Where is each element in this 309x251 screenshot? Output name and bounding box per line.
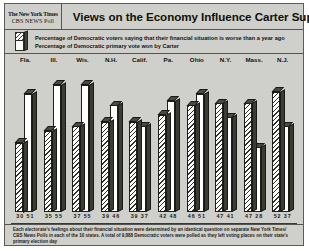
- bar-financial-worse-ny: [215, 103, 223, 212]
- bar-side-face: [52, 129, 57, 212]
- bar-side-face: [61, 82, 66, 212]
- value-label-nj: 52 37: [268, 213, 297, 223]
- bar-financial-worse-mass: [244, 103, 252, 212]
- bar-side-face: [32, 91, 37, 212]
- bar-side-face: [109, 119, 114, 212]
- chart-legend: Percentage of Democratic voters saying t…: [5, 30, 303, 54]
- bar-side-face: [223, 101, 228, 212]
- bar-side-face: [89, 82, 94, 212]
- x-axis-label-ohio: Ohio: [183, 56, 212, 67]
- legend-labels: Percentage of Democratic voters saying t…: [35, 35, 285, 49]
- bar-side-face: [118, 103, 123, 212]
- bar-front-face: [244, 103, 252, 212]
- chart-plot-area: Fla.Ill.Wis.N.H.Calif.Pa.OhioN.Y.Mass.N.…: [5, 54, 303, 224]
- bar-group-ny: [211, 67, 240, 212]
- bar-side-face: [175, 98, 180, 212]
- logo-nyt-text: The New York Times: [8, 10, 58, 17]
- screenshot-root: The New York Times CBS NEWS Poll Views o…: [0, 0, 309, 251]
- x-axis-label-fla: Fla.: [11, 56, 40, 67]
- bar-side-face: [232, 115, 237, 212]
- x-axis-label-pa: Pa.: [154, 56, 183, 67]
- x-axis-label-mass: Mass.: [240, 56, 269, 67]
- x-axis-label-ill: Ill.: [40, 56, 69, 67]
- bar-side-face: [289, 124, 294, 212]
- logo-cbs-text: CBS NEWS Poll: [12, 18, 54, 24]
- value-label-fla: 30 51: [11, 213, 40, 223]
- bar-financial-worse-fla: [15, 143, 23, 213]
- bar-side-face: [261, 145, 266, 212]
- bar-front-face: [129, 122, 137, 212]
- bar-group-ohio: [183, 67, 212, 212]
- legend-swatch-side: [24, 31, 28, 51]
- x-axis-label-ny: N.Y.: [211, 56, 240, 67]
- footnote-text: Each electorate's feelings about their f…: [13, 227, 295, 245]
- value-label-nh: 39 46: [97, 213, 126, 223]
- bar-group-fla: [11, 67, 40, 212]
- bars-container: [5, 67, 303, 212]
- value-labels-row: 30 5135 5537 5539 4639 3742 4846 5147 41…: [5, 213, 303, 223]
- bar-group-ill: [40, 67, 69, 212]
- bar-side-face: [280, 89, 285, 212]
- legend-swatch-white: [15, 41, 24, 51]
- bar-side-face: [23, 140, 28, 212]
- bar-financial-worse-ill: [44, 131, 52, 212]
- bar-financial-worse-nh: [101, 122, 109, 212]
- bar-group-calif: [125, 67, 154, 212]
- bar-group-nh: [97, 67, 126, 212]
- bar-side-face: [252, 101, 257, 212]
- x-axis-label-nh: N.H.: [97, 56, 126, 67]
- legend-item-financial-situation: Percentage of Democratic voters saying t…: [35, 35, 285, 41]
- bar-side-face: [166, 112, 171, 212]
- bar-front-face: [272, 92, 280, 212]
- chart-footnote: Each electorate's feelings about their f…: [5, 224, 303, 246]
- bar-financial-worse-wis: [72, 126, 80, 212]
- x-axis-labels: Fla.Ill.Wis.N.H.Calif.Pa.OhioN.Y.Mass.N.…: [5, 56, 303, 67]
- bar-group-pa: [154, 67, 183, 212]
- bar-side-face: [137, 119, 142, 212]
- page-title: Views on the Economy Influence Carter Su…: [62, 4, 309, 29]
- bar-side-face: [80, 124, 85, 212]
- bar-front-face: [215, 103, 223, 212]
- value-label-ohio: 46 51: [183, 213, 212, 223]
- bar-financial-worse-nj: [272, 92, 280, 212]
- x-axis-label-nj: N.J.: [268, 56, 297, 67]
- x-axis-label-calif: Calif.: [125, 56, 154, 67]
- legend-swatch-icon: [15, 32, 28, 51]
- bar-group-nj: [268, 67, 297, 212]
- bar-front-face: [187, 105, 195, 212]
- legend-swatch-hatched: [15, 32, 24, 41]
- bar-financial-worse-pa: [158, 115, 166, 212]
- bar-front-face: [72, 126, 80, 212]
- bar-financial-worse-calif: [129, 122, 137, 212]
- value-label-pa: 42 48: [154, 213, 183, 223]
- bar-financial-worse-ohio: [187, 105, 195, 212]
- bar-front-face: [158, 115, 166, 212]
- value-label-wis: 37 55: [68, 213, 97, 223]
- chart-frame: The New York Times CBS NEWS Poll Views o…: [4, 3, 304, 246]
- bar-group-wis: [68, 67, 97, 212]
- bar-front-face: [101, 122, 109, 212]
- bar-side-face: [195, 103, 200, 212]
- x-axis-label-wis: Wis.: [68, 56, 97, 67]
- value-label-calif: 39 37: [125, 213, 154, 223]
- bar-front-face: [15, 143, 23, 213]
- legend-item-carter-vote: Percentage of Democratic primary vote wo…: [35, 43, 285, 49]
- publisher-logo: The New York Times CBS NEWS Poll: [5, 4, 62, 29]
- bar-side-face: [146, 124, 151, 212]
- value-label-ny: 47 41: [211, 213, 240, 223]
- value-label-ill: 35 55: [40, 213, 69, 223]
- bar-side-face: [204, 91, 209, 212]
- bar-front-face: [44, 131, 52, 212]
- bar-group-mass: [240, 67, 269, 212]
- value-label-mass: 47 28: [240, 213, 269, 223]
- chart-header: The New York Times CBS NEWS Poll Views o…: [5, 4, 303, 30]
